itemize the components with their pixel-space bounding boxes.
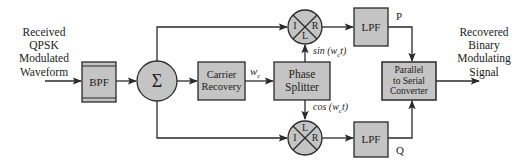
input-label: Received QPSK Modulated Waveform: [14, 26, 74, 79]
mixer-top-port-i: I: [290, 20, 300, 32]
cos-label: cos (wct): [313, 101, 348, 115]
mixer-bottom-port-r: R: [310, 132, 320, 144]
p-signal-line: [388, 27, 412, 61]
sin-label: sin (wct): [313, 45, 346, 59]
output-label: Recovered Binary Modulating Signal: [448, 26, 520, 79]
wc-label: wc: [250, 65, 260, 80]
summer-top-branch: [157, 27, 287, 61]
qpsk-receiver-diagram: [0, 0, 524, 168]
mixer-top-port-r: R: [310, 20, 320, 32]
p-label: P: [396, 10, 402, 23]
summer-symbol: Σ: [137, 61, 177, 101]
q-signal-line: [388, 101, 412, 138]
bpf-label: BPF: [82, 62, 116, 102]
parallel-to-serial-label: Parallel to Serial Converter: [382, 62, 436, 100]
lpf-bottom-label: LPF: [354, 122, 388, 157]
lpf-top-label: LPF: [354, 8, 388, 46]
mixer-bottom-port-i: I: [290, 132, 300, 144]
q-label: Q: [396, 144, 404, 157]
mixer-bottom-port-l: L: [300, 122, 310, 134]
mixer-top-port-l: L: [300, 30, 310, 42]
phase-splitter-label: Phase Splitter: [274, 62, 330, 100]
carrier-recovery-label: Carrier Recovery: [198, 62, 245, 100]
summer-bottom-branch: [157, 101, 287, 138]
